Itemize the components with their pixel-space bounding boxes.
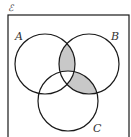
set-label-a: A [14, 30, 23, 43]
venn-diagram: ℰ A B C [0, 0, 131, 137]
universal-set-label: ℰ [8, 3, 15, 13]
set-label-b: B [110, 30, 119, 43]
set-label-c: C [93, 122, 102, 135]
